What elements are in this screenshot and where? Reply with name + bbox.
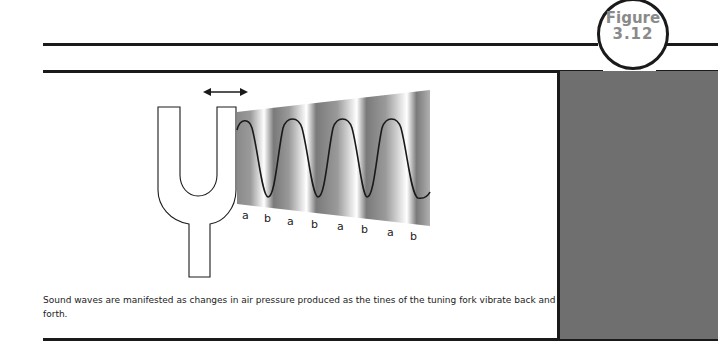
wave-label-b: b: [361, 223, 368, 236]
wave-label-b: b: [410, 230, 417, 243]
wave-label-b: b: [311, 218, 318, 231]
double-arrow-icon: [203, 88, 248, 96]
wave-label-a: a: [337, 220, 344, 233]
wave-label-a: a: [242, 209, 249, 222]
tuning-fork: [158, 107, 236, 277]
wave-label-a: a: [387, 226, 394, 239]
pressure-beam: [237, 90, 430, 226]
figure-caption: Sound waves are manifested as changes in…: [43, 293, 563, 321]
wave-label-a: a: [287, 215, 294, 228]
wave-label-b: b: [264, 212, 271, 225]
